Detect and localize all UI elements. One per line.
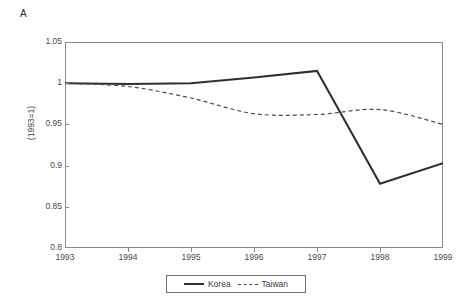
y-axis-title: (1993=1): [26, 88, 36, 158]
x-tick-mark: [191, 248, 192, 252]
y-tick-label: 0.9: [6, 161, 62, 170]
legend-swatch-korea-icon: [184, 283, 204, 285]
x-tick-mark: [254, 248, 255, 252]
legend-entry-taiwan: Taiwan: [238, 279, 288, 289]
y-tick-mark: [65, 207, 69, 208]
chart-legend: Korea Taiwan: [166, 275, 306, 293]
legend-label-korea: Korea: [208, 279, 231, 289]
x-tick-label: 1997: [294, 252, 340, 262]
series-line-korea: [65, 71, 443, 184]
x-tick-label: 1999: [420, 252, 466, 262]
y-tick-mark: [65, 166, 69, 167]
legend-entry-korea: Korea: [184, 279, 231, 289]
x-tick-label: 1996: [231, 252, 277, 262]
y-tick-label: 0.8: [6, 243, 62, 252]
y-tick-label: 1.05: [6, 37, 62, 46]
legend-swatch-taiwan-icon: [238, 284, 258, 285]
x-tick-label: 1993: [42, 252, 88, 262]
figure-panel-a: A 0.80.850.90.9511.05 (1993=1) 199319941…: [0, 0, 472, 306]
y-tick-mark: [65, 124, 69, 125]
legend-label-taiwan: Taiwan: [262, 279, 288, 289]
y-tick-label: 1: [6, 78, 62, 87]
x-tick-mark: [128, 248, 129, 252]
x-tick-label: 1995: [168, 252, 214, 262]
x-tick-label: 1994: [105, 252, 151, 262]
y-tick-mark: [65, 83, 69, 84]
series-line-taiwan: [65, 83, 443, 124]
x-tick-label: 1998: [357, 252, 403, 262]
x-tick-mark: [380, 248, 381, 252]
chart-lines: [65, 42, 443, 248]
y-tick-label: 0.85: [6, 202, 62, 211]
x-tick-mark: [317, 248, 318, 252]
